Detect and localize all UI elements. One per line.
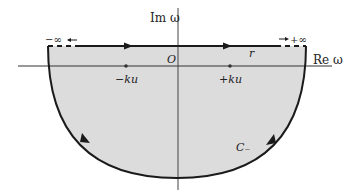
point-minus-ku xyxy=(124,64,128,68)
contour-diagram: Im ω Re ω O −ku +ku r C₋ −∞ +∞ xyxy=(0,0,356,195)
origin-label: O xyxy=(167,53,176,66)
label-minus-ku: −ku xyxy=(115,73,138,86)
path-label-r: r xyxy=(249,47,255,60)
real-axis-label: Re ω xyxy=(313,53,343,67)
arc-label-c-minus: C₋ xyxy=(236,141,250,154)
label-plus-ku: +ku xyxy=(219,73,242,86)
arrow-right-small-icon xyxy=(285,37,289,41)
imag-axis-label: Im ω xyxy=(150,11,180,25)
left-infinity-label: −∞ xyxy=(45,34,62,45)
arrow-left-icon xyxy=(67,38,71,42)
right-infinity-label: +∞ xyxy=(290,34,307,45)
point-plus-ku xyxy=(228,64,232,68)
